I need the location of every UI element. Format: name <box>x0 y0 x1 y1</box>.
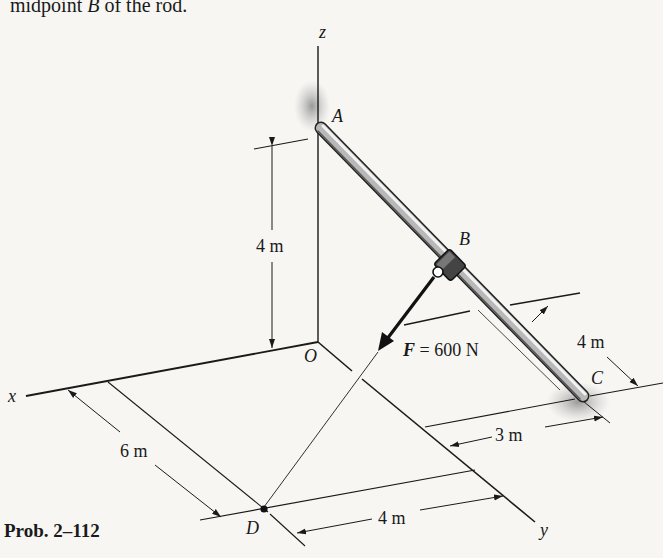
force-label: F = 600 N <box>402 340 479 360</box>
eyelet-b <box>433 267 443 277</box>
x-axis <box>26 342 318 396</box>
ref-line-upper-left <box>404 311 470 325</box>
dim-d-x-lower <box>155 465 221 517</box>
point-c-label: C <box>591 368 604 388</box>
problem-number: Prob. 2–112 <box>4 520 100 542</box>
dim-c-y-left <box>450 437 492 446</box>
z-axis-label: z <box>318 22 326 42</box>
force-value: = 600 N <box>415 340 479 360</box>
dim-c-x-lower <box>607 357 638 386</box>
line-through-d <box>200 470 475 520</box>
dim-c-y-label: 3 m <box>495 425 523 445</box>
point-d-label: D <box>245 518 259 538</box>
y-axis-label: y <box>538 520 548 540</box>
y-axis-segment-1 <box>318 342 352 371</box>
dim-height-label: 4 m <box>256 236 284 256</box>
x-axis-label: x <box>7 386 16 406</box>
line-d-extension <box>270 514 305 546</box>
point-a-label: A <box>331 106 344 126</box>
dim-c-x-upper <box>532 306 548 322</box>
point-d-marker <box>260 505 267 512</box>
line-b-to-d <box>264 352 378 507</box>
origin-label: O <box>304 346 317 366</box>
dim-height-tick <box>254 139 308 149</box>
dim-d-y-right <box>420 496 503 510</box>
force-symbol: F <box>402 340 415 360</box>
rod-force-diagram: z x y O A B C D F = 600 N 4 m 4 m 3 m 6 … <box>0 0 663 558</box>
dim-d-y-label: 4 m <box>378 508 406 528</box>
ref-line-upper-right <box>510 293 580 305</box>
point-b-label: B <box>459 229 470 249</box>
dim-d-x-upper <box>68 390 120 432</box>
force-arrow-shaft <box>384 277 434 343</box>
dim-c-x-label: 4 m <box>577 332 605 352</box>
dim-d-y-left <box>297 519 372 533</box>
dim-d-x-label: 6 m <box>120 441 148 461</box>
y-axis-segment-2 <box>362 379 535 522</box>
